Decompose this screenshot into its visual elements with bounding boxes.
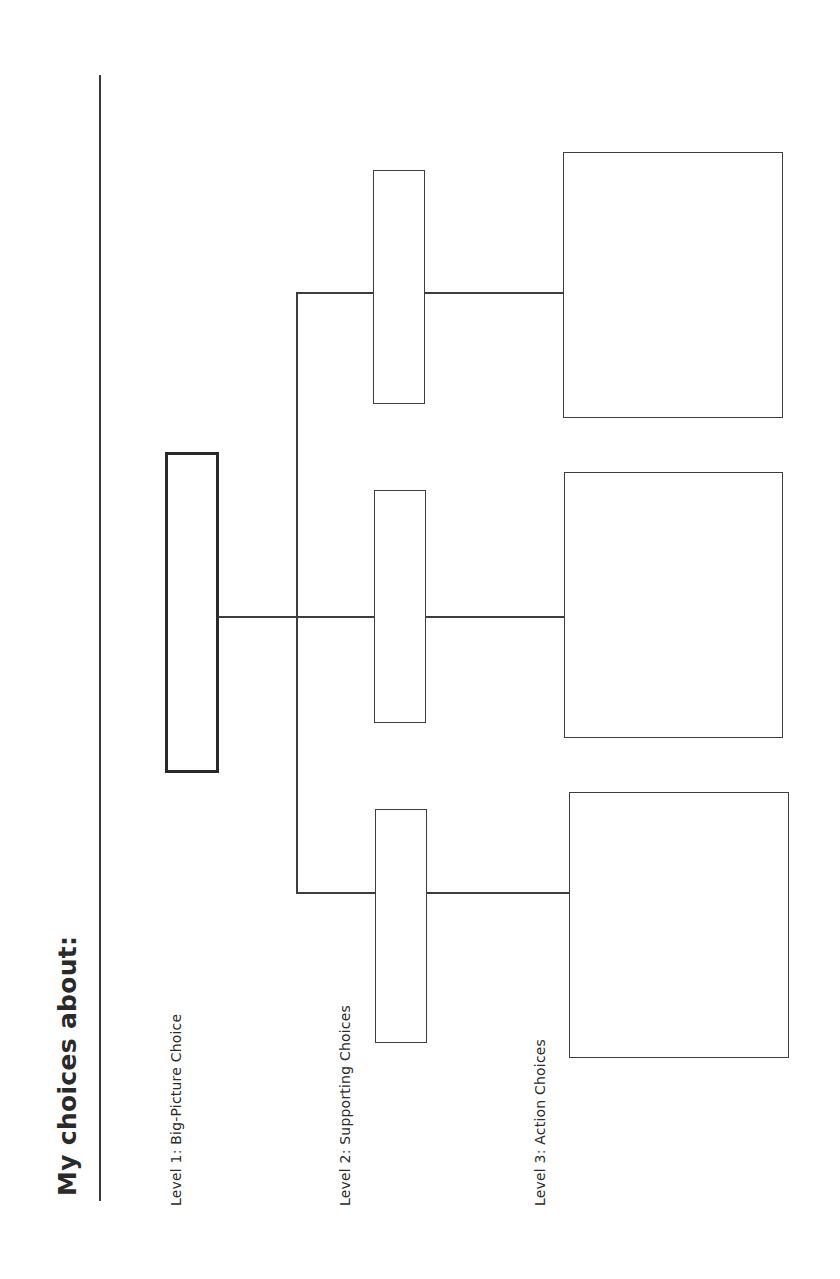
big-picture-choice-box[interactable] (165, 452, 219, 773)
level-1-label: Level 1: Big-Picture Choice (168, 1014, 184, 1206)
action-choice-box-2[interactable] (564, 472, 783, 738)
level-2-label: Level 2: Supporting Choices (337, 1005, 353, 1206)
connector-supporting-3-to-action-3 (427, 892, 570, 894)
supporting-choice-box-1[interactable] (373, 170, 425, 404)
connector-supporting-1-to-action-1 (425, 292, 564, 294)
title-underline (99, 75, 101, 1201)
connector-supporting-2-to-action-2 (426, 616, 565, 618)
action-choice-box-3[interactable] (569, 792, 789, 1058)
page-title: My choices about: (53, 936, 82, 1196)
supporting-choice-box-2[interactable] (374, 490, 426, 723)
level-3-label: Level 3: Action Choices (532, 1039, 548, 1206)
action-choice-box-1[interactable] (563, 152, 783, 418)
connector-trunk (296, 292, 298, 894)
supporting-choice-box-3[interactable] (375, 809, 427, 1043)
connector-trunk-to-supporting-1 (296, 292, 374, 294)
connector-trunk-to-supporting-3 (296, 892, 375, 894)
